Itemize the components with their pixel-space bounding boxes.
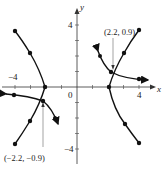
annotation-pointers <box>43 38 113 147</box>
x-axis-arrow-icon <box>150 85 156 90</box>
origin-label: 0 <box>68 90 73 100</box>
x-tick-label-neg4: −4 <box>8 72 18 82</box>
y-tick-label-neg4: −4 <box>64 144 74 154</box>
curve-left-steep <box>15 31 45 144</box>
y-axis-label: y <box>79 2 84 12</box>
curve-left-flat <box>6 94 58 124</box>
y-axis-arrow-icon <box>75 8 80 14</box>
chart: x y −4 4 4 −4 0 (2.2, 0.9) (−2.2, −0.9) <box>0 0 164 169</box>
curve-right-steep <box>109 30 139 143</box>
x-tick-label-4: 4 <box>137 90 142 100</box>
x-axis-label: x <box>156 84 161 94</box>
annotation-left: (−2.2, −0.9) <box>4 153 45 163</box>
pointer-arrow-icon <box>111 65 114 70</box>
annotation-right: (2.2, 0.9) <box>104 27 135 37</box>
y-tick-label-4: 4 <box>68 20 73 30</box>
